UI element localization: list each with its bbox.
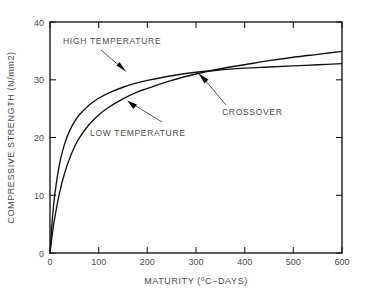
- y-tick-label-20: 20: [34, 133, 44, 143]
- curve-low-temperature: [50, 51, 342, 253]
- chart-figure: 0 100 200 300 400 500 600 0 10 20 30 40 …: [0, 0, 368, 301]
- annotation-low-temperature: LOW TEMPERATURE: [90, 101, 186, 139]
- y-tick-label-30: 30: [34, 75, 44, 85]
- data-curves: [50, 51, 342, 253]
- x-tick-label-100: 100: [91, 257, 106, 267]
- low-temperature-label: LOW TEMPERATURE: [90, 128, 186, 138]
- y-tick-label-10: 10: [34, 191, 44, 201]
- curve-high-temperature: [50, 64, 342, 253]
- crossover-label: CROSSOVER: [222, 107, 283, 117]
- x-tick-label-200: 200: [140, 257, 155, 267]
- compressive-strength-chart: 0 100 200 300 400 500 600 0 10 20 30 40 …: [0, 0, 368, 301]
- x-axis-title: MATURITY (oC−DAYS): [144, 275, 248, 286]
- low-temperature-arrowhead: [127, 101, 137, 110]
- x-tick-label-300: 300: [188, 257, 203, 267]
- y-axis-title: COMPRESSIVE STRENGTH (N/mm2): [6, 51, 16, 223]
- high-temperature-label: HIGH TEMPERATURE: [63, 36, 161, 46]
- y-axis-title-text: COMPRESSIVE STRENGTH (N/mm2): [6, 51, 16, 223]
- y-tick-labels: 0 10 20 30 40: [34, 18, 44, 259]
- x-axis-title-text: MATURITY (oC−DAYS): [144, 275, 248, 286]
- annotation-crossover: CROSSOVER: [199, 74, 283, 118]
- x-tick-label-0: 0: [47, 257, 52, 267]
- x-tick-label-500: 500: [286, 257, 301, 267]
- x-tick-label-600: 600: [334, 257, 349, 267]
- x-tick-label-400: 400: [237, 257, 252, 267]
- high-temperature-arrowhead: [117, 62, 127, 72]
- y-tick-label-0: 0: [39, 249, 44, 259]
- annotation-high-temperature: HIGH TEMPERATURE: [63, 36, 161, 72]
- x-tick-labels: 0 100 200 300 400 500 600: [47, 257, 349, 267]
- y-tick-label-40: 40: [34, 18, 44, 28]
